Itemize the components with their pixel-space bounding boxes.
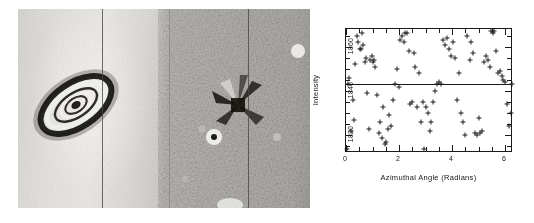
data-point <box>451 40 456 45</box>
x-axis-tick-label: 2 <box>396 155 400 162</box>
data-point <box>394 66 399 71</box>
x-axis-tick <box>452 145 453 151</box>
y-axis-tick <box>346 80 350 81</box>
data-point <box>494 49 499 54</box>
x-axis-tick <box>373 147 374 151</box>
x-axis-tick-label: 0 <box>343 155 347 162</box>
x-axis-tick-label: 6 <box>502 155 506 162</box>
residual-x-structure <box>158 9 310 208</box>
azimuthal-intensity-chart: Intensity Azimuthal Angle (Radians) 0246… <box>314 12 530 212</box>
x-axis-tick <box>412 147 413 151</box>
panel-edge-column <box>169 9 170 208</box>
data-point <box>361 42 366 47</box>
y-axis-tick <box>505 91 511 92</box>
y-axis-tick <box>507 69 511 70</box>
x-axis-tick <box>426 147 427 151</box>
data-point <box>389 124 394 129</box>
y-axis-tick <box>507 36 511 37</box>
y-axis-tick-label: 1820 <box>346 126 353 142</box>
x-axis-tick <box>439 29 440 33</box>
y-axis-title: Intensity <box>311 75 320 106</box>
data-point <box>384 139 389 144</box>
x-axis-tick <box>359 29 360 33</box>
x-axis-tick <box>492 147 493 151</box>
y-axis-tick <box>507 58 511 59</box>
plot-area <box>346 29 511 151</box>
data-point <box>409 100 414 105</box>
data-point <box>447 46 452 51</box>
data-point <box>467 58 472 63</box>
x-axis-tick <box>373 29 374 33</box>
data-point <box>401 40 406 45</box>
y-axis-tick <box>346 36 350 37</box>
y-axis-tick <box>505 47 511 48</box>
data-point <box>425 111 430 116</box>
data-point <box>461 120 466 125</box>
ccd-bleed-column <box>248 9 249 208</box>
data-point <box>431 100 436 105</box>
galaxy-isophotes <box>18 9 158 208</box>
x-axis-tick <box>412 29 413 33</box>
data-point <box>429 120 434 125</box>
data-point <box>454 97 459 102</box>
data-point <box>378 120 383 125</box>
x-axis-tick <box>465 29 466 33</box>
y-axis-tick <box>346 102 350 103</box>
galaxy-image-panel <box>18 9 158 208</box>
y-axis-tick-label: 1860 <box>346 38 353 54</box>
data-point <box>480 128 485 133</box>
data-point <box>351 117 356 122</box>
data-point <box>375 93 380 98</box>
data-point <box>353 62 358 67</box>
y-axis-tick <box>507 80 511 81</box>
data-point <box>469 40 474 45</box>
data-point <box>359 46 364 51</box>
data-point <box>433 89 438 94</box>
x-axis-tick <box>479 29 480 33</box>
data-point <box>459 111 464 116</box>
x-axis-tick <box>386 147 387 151</box>
y-axis-tick <box>346 58 350 59</box>
data-point <box>476 115 481 120</box>
y-axis-tick-label: 1840 <box>346 82 353 98</box>
data-point <box>452 55 457 60</box>
data-point <box>465 33 470 38</box>
data-point <box>411 51 416 56</box>
data-point <box>417 71 422 76</box>
data-point <box>445 35 450 40</box>
data-point <box>419 120 424 125</box>
x-axis-tick <box>452 29 453 35</box>
x-axis-title: Azimuthal Angle (Radians) <box>345 173 512 182</box>
x-axis-tick <box>399 145 400 151</box>
data-point <box>366 126 371 131</box>
fit-line <box>346 84 511 85</box>
data-point <box>354 33 359 38</box>
scientific-figure: Intensity Azimuthal Angle (Radians) 0246… <box>0 0 534 223</box>
x-axis-tick <box>426 29 427 33</box>
data-point <box>413 64 418 69</box>
x-axis-tick <box>505 145 506 151</box>
data-point <box>373 64 378 69</box>
x-axis-tick <box>399 29 400 35</box>
x-axis-tick <box>386 29 387 33</box>
data-point <box>362 60 367 65</box>
y-axis-tick <box>346 113 350 114</box>
y-axis-tick <box>505 135 511 136</box>
y-axis-tick <box>507 102 511 103</box>
y-axis-tick <box>507 113 511 114</box>
data-point <box>424 104 429 109</box>
x-axis-tick <box>346 29 347 35</box>
y-axis-tick <box>507 146 511 147</box>
data-point <box>365 91 370 96</box>
residual-image-panel <box>158 9 310 208</box>
ccd-bleed-column <box>102 9 103 208</box>
x-axis-tick-label: 4 <box>449 155 453 162</box>
data-point <box>471 51 476 56</box>
data-point <box>404 31 409 36</box>
data-point <box>415 104 420 109</box>
x-axis-tick <box>439 147 440 151</box>
data-point <box>456 71 461 76</box>
data-point <box>427 128 432 133</box>
data-point <box>381 104 386 109</box>
x-axis-tick <box>479 147 480 151</box>
